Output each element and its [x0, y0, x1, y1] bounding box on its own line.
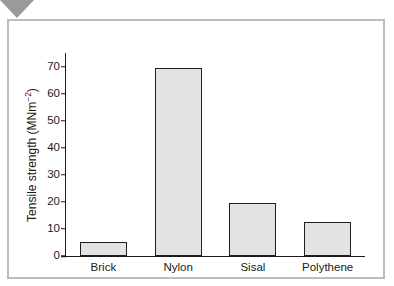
x-tick-label: Polythene — [302, 262, 353, 274]
x-tick-label: Brick — [91, 262, 117, 274]
y-axis-title-text: Tensile strength (MNm — [25, 102, 39, 222]
y-tick-label: 70 — [47, 61, 60, 73]
y-tick-label: 10 — [47, 223, 60, 235]
y-tick-mark — [61, 147, 66, 149]
y-tick-label: 60 — [47, 88, 60, 100]
y-axis-title-close: ) — [25, 88, 39, 92]
y-tick-label: 30 — [47, 169, 60, 181]
triangle-down-icon — [0, 0, 34, 18]
bar-sisal — [229, 203, 276, 256]
chart-page: Tensile strength (MNm−2) 010203040506070… — [0, 0, 394, 286]
y-tick-mark — [61, 66, 66, 68]
y-tick-mark — [61, 93, 66, 95]
y-tick-label: 50 — [47, 115, 60, 127]
y-tick-mark — [61, 120, 66, 122]
y-tick-mark — [61, 201, 66, 203]
y-axis-title: Tensile strength (MNm−2) — [19, 53, 37, 257]
bar-polythene — [304, 222, 351, 256]
y-tick-label: 0 — [54, 250, 60, 262]
plot-area: 010203040506070 BrickNylonSisalPolythene — [65, 53, 365, 257]
x-tick-label: Sisal — [240, 262, 265, 274]
y-tick-mark — [61, 174, 66, 176]
y-tick-mark — [61, 228, 66, 230]
y-tick-label: 40 — [47, 142, 60, 154]
x-tick-label: Nylon — [163, 262, 192, 274]
y-axis-title-exponent: −2 — [23, 92, 33, 102]
bar-nylon — [155, 68, 202, 256]
figure-frame: Tensile strength (MNm−2) 010203040506070… — [7, 19, 385, 279]
bar-brick — [80, 242, 127, 256]
y-tick-mark — [61, 255, 66, 257]
y-tick-label: 20 — [47, 196, 60, 208]
